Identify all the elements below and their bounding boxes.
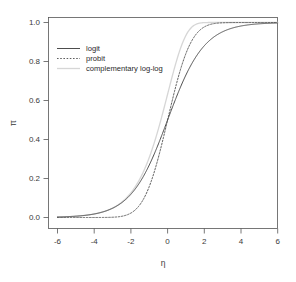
- x-tick-label: 2: [202, 237, 207, 246]
- x-tick-label: -2: [127, 237, 135, 246]
- legend-label-complementary-log-log: complementary log-log: [86, 64, 163, 73]
- x-tick-label: 6: [275, 237, 280, 246]
- y-axis-title: π: [8, 120, 18, 126]
- x-tick-label: -4: [91, 237, 99, 246]
- legend-label-logit: logit: [86, 44, 101, 53]
- x-tick-label: -6: [54, 237, 62, 246]
- x-tick-label: 4: [239, 237, 244, 246]
- y-tick-label: 0.6: [29, 96, 41, 105]
- plot-background: [0, 0, 296, 282]
- y-tick-label: 0.8: [29, 57, 41, 66]
- x-axis-title: η: [161, 258, 166, 268]
- y-tick-label: 1.0: [29, 18, 41, 27]
- y-tick-label: 0.2: [29, 174, 41, 183]
- y-tick-label: 0.0: [29, 213, 41, 222]
- x-tick-label: 0: [165, 237, 170, 246]
- chart-canvas: 1.0 0.8 0.6 0.4 0.2 0.0 -6 -4 -2 0 2: [0, 0, 296, 282]
- link-functions-plot: 1.0 0.8 0.6 0.4 0.2 0.0 -6 -4 -2 0 2: [0, 0, 296, 282]
- y-tick-label: 0.4: [29, 135, 41, 144]
- legend-label-probit: probit: [86, 54, 106, 63]
